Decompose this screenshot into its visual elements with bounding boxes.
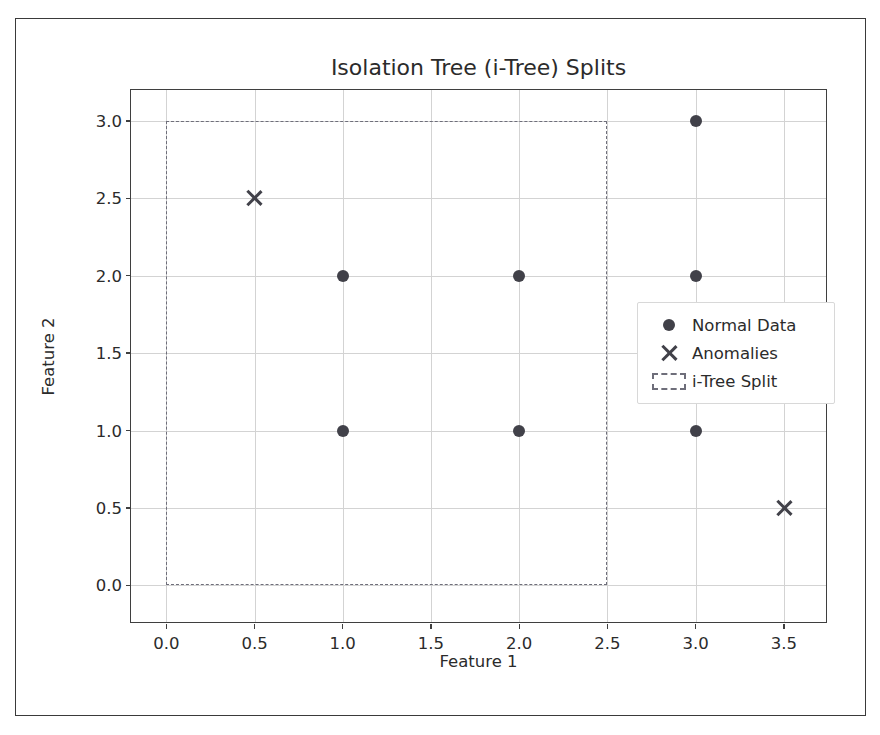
- chart-title: Isolation Tree (i-Tree) Splits: [130, 55, 827, 80]
- y-tick-mark: [126, 352, 131, 353]
- y-axis-label: Feature 2: [38, 89, 58, 623]
- figure-frame: Isolation Tree (i-Tree) Splits 0.00.51.0…: [15, 18, 866, 716]
- x-tick-mark: [254, 624, 255, 629]
- legend-label-anomalies: Anomalies: [692, 344, 778, 363]
- x-tick-mark: [519, 624, 520, 629]
- plot-area: 0.00.51.01.52.02.53.03.5 0.00.51.01.52.0…: [130, 89, 827, 623]
- anomaly-point: [774, 498, 794, 518]
- y-tick-label: 0.0: [96, 576, 122, 595]
- normal-data-point: [690, 270, 702, 282]
- x-axis-label: Feature 1: [130, 652, 827, 671]
- x-tick-mark: [430, 624, 431, 629]
- y-tick-mark: [126, 120, 131, 121]
- i-tree-split-rectangle: [166, 121, 607, 585]
- y-tick-label: 2.0: [96, 266, 122, 285]
- normal-data-point: [690, 425, 702, 437]
- x-tick-label: 1.0: [330, 634, 356, 653]
- y-tick-label: 1.5: [96, 344, 122, 363]
- y-tick-mark: [126, 430, 131, 431]
- y-tick-label: 2.5: [96, 189, 122, 208]
- normal-data-point: [337, 270, 349, 282]
- x-tick-mark: [166, 624, 167, 629]
- y-tick-mark: [126, 507, 131, 508]
- y-tick-label: 0.5: [96, 498, 122, 517]
- x-tick-mark: [783, 624, 784, 629]
- legend-item-itree-split: i-Tree Split: [646, 367, 824, 395]
- x-tick-label: 3.0: [683, 634, 709, 653]
- x-tick-label: 0.0: [153, 634, 179, 653]
- y-tick-mark: [126, 275, 131, 276]
- x-tick-label: 1.5: [418, 634, 444, 653]
- normal-data-point: [513, 425, 525, 437]
- normal-data-point: [337, 425, 349, 437]
- y-tick-label: 3.0: [96, 111, 122, 130]
- y-axis-label-text: Feature 2: [39, 317, 58, 395]
- legend-item-normal-data: Normal Data: [646, 311, 824, 339]
- legend-item-anomalies: Anomalies: [646, 339, 824, 367]
- x-tick-mark: [607, 624, 608, 629]
- circle-marker-icon: [646, 313, 692, 337]
- y-tick-mark: [126, 585, 131, 586]
- x-tick-label: 2.0: [506, 634, 532, 653]
- x-marker-icon: [646, 341, 692, 365]
- x-tick-label: 0.5: [241, 634, 267, 653]
- y-tick-mark: [126, 198, 131, 199]
- x-tick-label: 2.5: [594, 634, 620, 653]
- gridline-horizontal: [131, 585, 826, 586]
- legend-label-normal-data: Normal Data: [692, 316, 796, 335]
- legend-label-itree-split: i-Tree Split: [692, 372, 777, 391]
- y-tick-label: 1.0: [96, 421, 122, 440]
- x-tick-mark: [695, 624, 696, 629]
- anomaly-point: [245, 188, 265, 208]
- x-tick-label: 3.5: [771, 634, 797, 653]
- chart-legend: Normal Data Anomalies i-Tree Split: [637, 302, 835, 404]
- normal-data-point: [513, 270, 525, 282]
- normal-data-point: [690, 115, 702, 127]
- gridline-vertical: [607, 90, 608, 622]
- x-tick-mark: [342, 624, 343, 629]
- dashed-rectangle-icon: [646, 369, 692, 393]
